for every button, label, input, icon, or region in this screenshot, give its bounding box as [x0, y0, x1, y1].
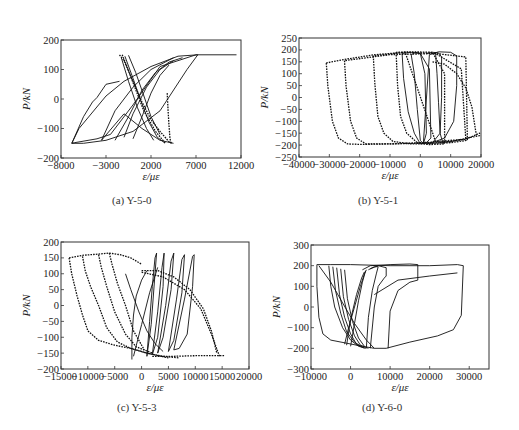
x-axis-label: ε/με — [391, 381, 409, 393]
y-tick-label: −200 — [287, 343, 309, 354]
y-tick-label: 200 — [293, 260, 309, 271]
chart-panel-d: −100000100002000030000−300−200−100010020… — [0, 0, 519, 430]
y-tick-label: −300 — [287, 364, 309, 375]
series-loop-6k — [366, 267, 378, 348]
y-tick-label: −100 — [287, 322, 309, 333]
y-tick-label: 100 — [293, 281, 309, 292]
series-group — [317, 264, 463, 348]
y-tick-label: 300 — [293, 240, 309, 251]
series-inner-curve-27k — [374, 273, 457, 295]
plot-area-d: −100000100002000030000−300−200−100010020… — [0, 0, 519, 430]
plot-frame — [311, 245, 489, 369]
x-tick-label: 20000 — [417, 371, 443, 382]
x-tick-label: 0 — [348, 371, 353, 382]
x-tick-label: 30000 — [456, 371, 482, 382]
series-inner-3 — [337, 268, 365, 349]
y-axis-label: P/kN — [270, 295, 282, 319]
caption-d: (d) Y-6-0 — [362, 401, 402, 413]
series-loop-9k — [370, 266, 386, 349]
series-loop-17k — [362, 264, 417, 348]
y-tick-label: 0 — [304, 302, 309, 313]
